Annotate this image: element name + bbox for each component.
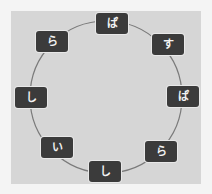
letter-tile-3[interactable]: ぱ [167,86,199,107]
letter-tile-8[interactable]: ら [36,31,68,52]
letter-tile-6[interactable]: い [41,137,73,158]
letter-tile-1[interactable]: ぱ [96,13,128,34]
letter-tile-5[interactable]: し [89,161,121,182]
letter-tile-7[interactable]: し [15,87,47,108]
letter-tile-2[interactable]: す [152,34,184,55]
letter-tile-4[interactable]: ら [145,141,177,162]
